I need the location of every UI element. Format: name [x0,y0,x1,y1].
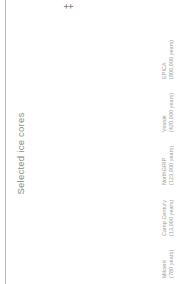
bar-label-value: (800,000 years) [168,40,175,79]
bar-label-vostok: Vostok(420,000 years) [161,93,174,132]
bar-label-camp-century: Camp Century(13,000 years) [161,200,174,236]
bar-label-value: (780 years) [168,250,175,278]
bar-label-name: EPICA [161,40,168,79]
bar-label-name: NorthGRIP [161,146,168,185]
bar-label-value: (420,000 years) [168,93,175,132]
bar-label-name: Camp Century [161,200,168,236]
bar-row [136,141,157,163]
bar-row [20,30,157,57]
bar-label-value: (13,000 years) [168,200,175,236]
bar-label-name: Vostok [161,93,168,132]
bar-label-value: (123,000 years) [168,146,175,185]
plot-area: EPICA(800,000 years)Vostok(420,000 years… [0,0,187,284]
bar-row [147,196,157,214]
bar-row [147,243,157,256]
chart-canvas: ‡ Selected ice cores EPICA(800,000 years… [0,0,187,284]
bar-row [85,86,157,110]
bar-label-epica: EPICA(800,000 years) [161,40,174,79]
bar-label-name: Milcent [161,250,168,278]
bar-label-milcent: Milcent(780 years) [161,250,174,278]
bar-label-northgrip: NorthGRIP(123,000 years) [161,146,174,185]
